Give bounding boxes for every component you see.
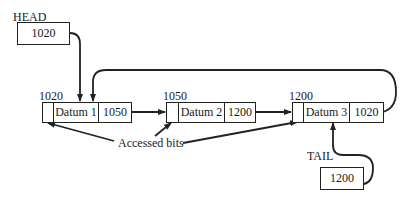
- head-pointer-value: 1020: [18, 23, 69, 44]
- node-2-address: 1050: [163, 90, 187, 102]
- node-3-next: 1020: [349, 103, 383, 122]
- tail-pointer-box: 1200: [320, 167, 364, 190]
- node-2-datum: Datum 2: [178, 103, 224, 122]
- accessed-bit-arrow-2: [155, 123, 171, 136]
- accessed-bit-arrow-1: [48, 123, 114, 141]
- node-1-accessed-bit: [43, 103, 53, 122]
- node-2-next: 1200: [224, 103, 255, 122]
- accessed-bit-arrow-3: [183, 122, 297, 143]
- node-3-address: 1200: [289, 90, 313, 102]
- node-1-datum: Datum 1: [53, 103, 98, 122]
- node-1-next: 1050: [98, 103, 131, 122]
- node-1-address: 1020: [39, 90, 63, 102]
- node-1: Datum 1 1050: [42, 102, 132, 123]
- node-2-accessed-bit: [167, 103, 178, 122]
- accessed-bits-label: Accessed bits: [118, 137, 184, 149]
- node-3: Datum 3 1020: [292, 102, 384, 123]
- head-arrow: [70, 33, 80, 101]
- tail-label: TAIL: [307, 150, 333, 162]
- node-3-accessed-bit: [293, 103, 303, 122]
- head-pointer-box: 1020: [17, 22, 70, 45]
- node-2: Datum 2 1200: [166, 102, 256, 123]
- node-3-datum: Datum 3: [303, 103, 349, 122]
- tail-pointer-value: 1200: [321, 168, 363, 189]
